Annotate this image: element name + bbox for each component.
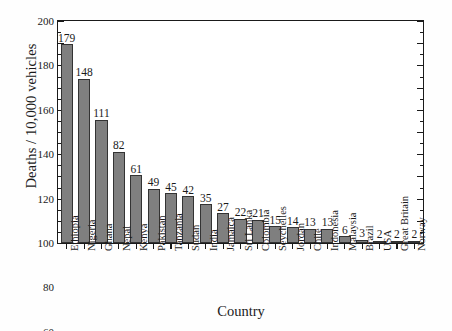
plot-area: 020406080100120140160180200 179148111826… <box>57 20 424 244</box>
category-label: Jordan <box>296 223 307 251</box>
x-tick <box>240 243 241 249</box>
right-tick-minor <box>420 32 423 33</box>
category-label: Ghana <box>104 224 115 251</box>
x-tick <box>310 243 311 249</box>
y-tick-label: 160 <box>38 104 55 115</box>
x-tick <box>327 243 328 249</box>
bar: 179 <box>61 44 73 243</box>
bar-value-label: 35 <box>200 193 212 205</box>
right-tick-minor <box>420 143 423 144</box>
x-tick <box>136 243 137 249</box>
category-label: Pakistan <box>157 215 168 251</box>
bar-value-label: 45 <box>165 182 177 194</box>
x-tick <box>292 243 293 249</box>
bar-value-label: 148 <box>75 67 92 79</box>
category-label: Malaysia <box>348 213 359 252</box>
bar-value-label: 49 <box>148 177 160 189</box>
right-tick-major <box>417 110 423 111</box>
x-tick <box>66 243 67 249</box>
x-tick <box>362 243 363 249</box>
category-label: Ethiopia <box>70 215 81 251</box>
category-label: Sri Lanka <box>244 210 255 251</box>
right-tick-major <box>417 43 423 44</box>
y-tick-label: 180 <box>38 60 55 71</box>
y-axis-label: Deaths / 10,000 vehicles <box>20 0 42 242</box>
x-tick <box>223 243 224 249</box>
right-tick-major <box>417 199 423 200</box>
right-tick-minor <box>420 165 423 166</box>
right-tick-major <box>417 65 423 66</box>
bar-value-label: 82 <box>113 140 125 152</box>
y-tick-label: 120 <box>38 193 55 204</box>
right-tick-minor <box>420 99 423 100</box>
bar-value-label: 61 <box>130 164 142 176</box>
right-tick-major <box>417 88 423 89</box>
bar-value-label: 27 <box>217 202 229 214</box>
category-label: USA <box>383 230 394 251</box>
y-tick-label: 100 <box>38 238 55 249</box>
category-label: Nepal <box>122 226 133 251</box>
y-tick-label: 60 <box>43 326 54 331</box>
right-tick-minor <box>420 188 423 189</box>
y-tick-label: 200 <box>38 16 55 27</box>
x-tick <box>379 243 380 249</box>
right-tick-minor <box>420 210 423 211</box>
x-tick <box>205 243 206 249</box>
x-tick <box>344 243 345 249</box>
bar-value-label: 42 <box>183 185 195 197</box>
right-tick-minor <box>420 54 423 55</box>
category-label: India <box>209 229 220 251</box>
y-tick-label: 140 <box>38 149 55 160</box>
x-tick <box>101 243 102 249</box>
category-label: Colombia <box>261 210 272 251</box>
y-tick-major: 0 <box>58 243 64 244</box>
right-tick-major <box>417 154 423 155</box>
category-label: Tanzania <box>174 213 185 251</box>
category-label: Norway <box>417 217 428 251</box>
x-tick <box>188 243 189 249</box>
right-tick-major <box>417 176 423 177</box>
x-tick <box>170 243 171 249</box>
x-tick <box>118 243 119 249</box>
x-tick <box>84 243 85 249</box>
x-tick <box>257 243 258 249</box>
category-label: Great Britain <box>400 196 411 251</box>
y-tick-major: 200 <box>58 21 64 22</box>
category-label: Sudan <box>191 225 202 251</box>
x-tick <box>153 243 154 249</box>
right-tick-major <box>417 21 423 22</box>
x-tick <box>414 243 415 249</box>
chart-figure: Deaths / 10,000 vehicles 020406080100120… <box>0 0 452 331</box>
category-label: Seychelles <box>278 206 289 251</box>
category-label: Jamaica <box>226 217 237 251</box>
category-label: Nigeria <box>87 220 98 252</box>
right-tick-minor <box>420 77 423 78</box>
x-tick <box>275 243 276 249</box>
x-axis-label: Country <box>57 303 425 320</box>
category-label: Brazil <box>365 225 376 251</box>
right-tick-minor <box>420 121 423 122</box>
right-tick-major <box>417 132 423 133</box>
category-label: Indonesia <box>330 210 341 251</box>
y-tick-label: 80 <box>43 282 54 293</box>
x-tick <box>396 243 397 249</box>
category-label: Chile <box>313 228 324 251</box>
category-label: Kenya <box>139 224 150 251</box>
bar-value-label: 111 <box>93 108 109 120</box>
bar-value-label: 179 <box>58 33 75 45</box>
